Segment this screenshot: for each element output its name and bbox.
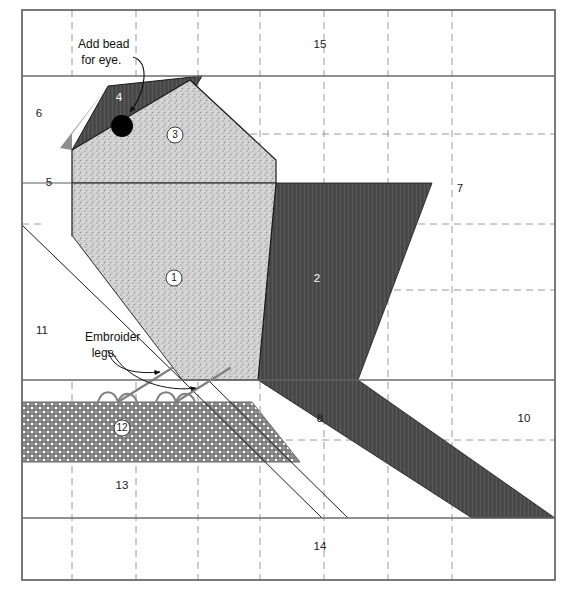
- note-embroider-legs: Embroider legs.: [85, 329, 140, 361]
- piece-number-4: 4: [116, 91, 122, 103]
- piece-number-8: 8: [317, 412, 323, 424]
- piece-number-2: 2: [314, 272, 320, 284]
- piece-number-15: 15: [314, 38, 327, 50]
- bead-eye-marker: [111, 115, 133, 137]
- piece-number-13: 13: [116, 479, 129, 491]
- piece-number-14: 14: [314, 540, 327, 552]
- piece-region-12: [22, 402, 300, 462]
- piece-number-6: 6: [36, 107, 42, 119]
- pattern-drawing: [0, 0, 572, 590]
- piece-number-9: 9: [445, 412, 451, 424]
- piece-number-3: 3: [167, 127, 184, 144]
- piece-number-10: 10: [518, 412, 531, 424]
- pattern-canvas: Add bead for eye. Embroider legs. 1 2 3 …: [0, 0, 572, 590]
- piece-number-5: 5: [46, 176, 52, 188]
- piece-number-7: 7: [457, 182, 463, 194]
- piece-number-12: 12: [114, 420, 131, 437]
- note-add-bead: Add bead for eye.: [78, 36, 129, 68]
- piece-number-11: 11: [36, 324, 48, 336]
- piece-number-1: 1: [166, 270, 183, 287]
